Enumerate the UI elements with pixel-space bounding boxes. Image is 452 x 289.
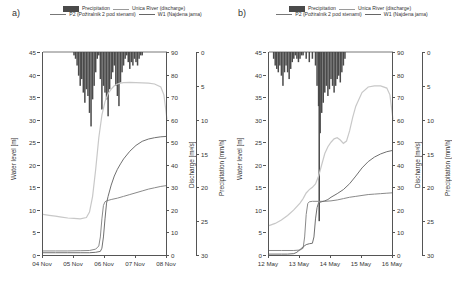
precipitation-bar: [309, 52, 311, 62]
x-tick-mark: [268, 255, 269, 258]
precipitation-bar: [336, 52, 338, 79]
precipitation-bar: [104, 52, 106, 93]
y-left-tick-label: 35: [255, 94, 262, 101]
precipitation-bar: [97, 52, 99, 59]
y-discharge-tick-label: 20: [171, 206, 178, 213]
y-precip-tick-mark: [196, 52, 199, 53]
precipitation-bar: [293, 52, 295, 59]
discharge-line-icon: [339, 9, 355, 10]
y-left-tick-mark: [263, 75, 266, 76]
precipitation-bar: [114, 52, 116, 66]
precipitation-bar: [285, 52, 287, 66]
y-left-tick-mark: [263, 120, 266, 121]
precipitation-bar: [110, 52, 112, 79]
y-left-tick-mark: [263, 142, 266, 143]
panel-a-legend: Precipitation Unica River (discharge) P2…: [26, 6, 222, 17]
precipitation-bar: [332, 52, 334, 86]
precipitation-bar: [344, 52, 346, 59]
precipitation-bar: [302, 52, 304, 55]
y-left-tick-label: 20: [29, 161, 36, 168]
y-discharge-tick-mark: [166, 187, 169, 188]
x-tick-mark: [361, 255, 362, 258]
panel-b-legend: Precipitation Unica River (discharge) P2…: [252, 6, 448, 17]
x-tick-mark: [135, 255, 136, 258]
y-left-tick-mark: [263, 97, 266, 98]
x-tick-mark: [299, 255, 300, 258]
y-discharge-tick-label: 60: [397, 116, 404, 123]
y-discharge-tick-mark: [166, 52, 169, 53]
y-precip-tick-mark: [196, 187, 199, 188]
precipitation-bar: [135, 52, 137, 62]
precipitation-bar: [305, 52, 307, 59]
y-precip-tick-mark: [422, 52, 425, 53]
w1-line-icon: [365, 14, 381, 15]
x-tick-mark: [42, 255, 43, 258]
x-tick-mark: [330, 255, 331, 258]
precipitation-bar: [298, 52, 300, 62]
precipitation-bar: [333, 52, 335, 93]
y-left-tick-label: 5: [33, 229, 36, 236]
figure-root: a) Precipitation Unica River (discharge)…: [0, 0, 452, 289]
panel-b-w1-curve: [269, 150, 393, 254]
panel-b-y-precip-title: Precipitation [mm/h]: [444, 140, 451, 196]
y-discharge-tick-label: 70: [397, 94, 404, 101]
precipitation-bar: [284, 52, 286, 72]
x-tick-label: 07 Nov: [125, 260, 145, 267]
y-discharge-tick-mark: [392, 210, 395, 211]
panel-a: a) Precipitation Unica River (discharge)…: [0, 0, 226, 289]
precipitation-bar: [131, 52, 133, 62]
precipitation-bar: [83, 52, 85, 93]
precipitation-bar: [121, 52, 123, 72]
panel-b-svg: [269, 52, 393, 255]
panel-a-plot-area: [42, 52, 167, 256]
y-discharge-tick-mark: [392, 120, 395, 121]
panel-a-precip-axis: 051015202530: [196, 52, 197, 255]
x-tick-label: 06 Nov: [94, 260, 114, 267]
y-discharge-tick-label: 10: [397, 229, 404, 236]
y-discharge-tick-mark: [166, 75, 169, 76]
y-left-tick-mark: [263, 187, 266, 188]
y-left-tick-label: 10: [255, 206, 262, 213]
y-left-tick-label: 45: [255, 49, 262, 56]
precipitation-bar: [316, 52, 318, 86]
precipitation-bar: [315, 52, 317, 66]
precipitation-bar: [132, 52, 134, 66]
precipitation-bar: [123, 52, 125, 66]
panel-a-discharge-axis: 0102030405060708090: [166, 52, 167, 255]
y-discharge-tick-label: 90: [397, 49, 404, 56]
y-precip-tick-label: 5: [201, 82, 204, 89]
y-left-tick-mark: [263, 52, 266, 53]
y-discharge-tick-label: 80: [171, 71, 178, 78]
y-left-tick-label: 20: [255, 161, 262, 168]
legend-w1-label: W1 (Najdena jama): [384, 12, 428, 17]
precipitation-bar: [274, 52, 276, 66]
y-left-tick-mark: [263, 165, 266, 166]
precipitation-bar: [112, 52, 114, 72]
y-left-tick-label: 30: [255, 116, 262, 123]
precipitation-bar: [299, 52, 301, 59]
precipitation-bar: [84, 52, 86, 103]
panel-a-y-discharge-title: Discharge [m³/s]: [188, 141, 195, 188]
precipitation-bar: [343, 52, 345, 66]
x-tick-label: 12 May: [258, 260, 278, 267]
precipitation-bar: [103, 52, 105, 86]
y-discharge-tick-label: 30: [397, 184, 404, 191]
x-tick-label: 14 May: [320, 260, 340, 267]
y-left-tick-label: 45: [29, 49, 36, 56]
precipitation-bar: [93, 52, 95, 86]
x-tick-label: 15 May: [351, 260, 371, 267]
legend-p2-label: P2 (Požiralnik 2 pod stenami): [295, 12, 362, 17]
y-precip-tick-label: 25: [427, 218, 434, 225]
y-discharge-tick-label: 10: [171, 229, 178, 236]
precipitation-bar: [86, 52, 88, 89]
precipitation-bar: [76, 52, 78, 66]
y-left-tick-mark: [37, 255, 40, 256]
y-discharge-tick-mark: [392, 75, 395, 76]
precipitation-bar: [276, 52, 278, 69]
y-precip-tick-label: 10: [201, 116, 208, 123]
y-discharge-tick-label: 50: [171, 139, 178, 146]
y-precip-tick-mark: [196, 221, 199, 222]
y-discharge-tick-mark: [392, 142, 395, 143]
panel-a-x-axis: 04 Nov05 Nov06 Nov07 Nov08 Nov: [42, 255, 166, 271]
y-left-tick-label: 40: [255, 71, 262, 78]
